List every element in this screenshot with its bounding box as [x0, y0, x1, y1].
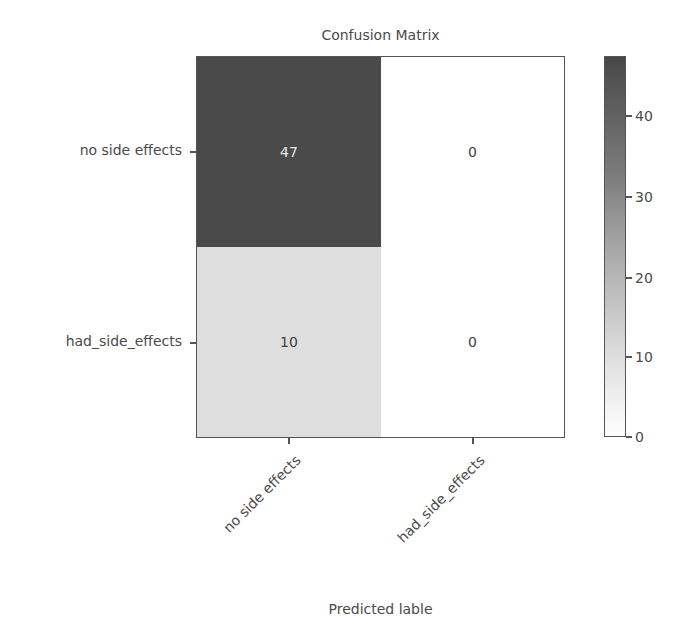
cell-value: 10 [280, 334, 298, 350]
colorbar [604, 56, 626, 437]
cell-r1-c0: 10 [197, 247, 381, 437]
colorbar-tick-0 [626, 436, 632, 438]
x-tick-1 [472, 438, 474, 444]
cell-r0-c0: 47 [197, 57, 381, 247]
colorbar-tick-20 [626, 277, 632, 279]
y-tick-0 [190, 151, 196, 153]
colorbar-label-20: 20 [635, 270, 653, 286]
y-tick-1 [190, 342, 196, 344]
confusion-matrix: 47 0 10 0 [196, 56, 565, 438]
colorbar-tick-10 [626, 356, 632, 358]
cell-value: 0 [468, 144, 477, 160]
chart-title: Confusion Matrix [196, 27, 565, 43]
colorbar-tick-30 [626, 196, 632, 198]
colorbar-tick-40 [626, 115, 632, 117]
cell-value: 0 [468, 334, 477, 350]
y-tick-label-1: had_side_effects [66, 333, 182, 349]
x-tick-label-0: no side effects [220, 452, 304, 536]
colorbar-label-10: 10 [635, 349, 653, 365]
cell-r0-c1: 0 [381, 57, 564, 247]
colorbar-label-0: 0 [635, 429, 644, 445]
colorbar-label-30: 30 [635, 189, 653, 205]
y-tick-label-0: no side effects [80, 142, 182, 158]
colorbar-label-40: 40 [635, 108, 653, 124]
x-axis-label: Predicted lable [196, 601, 565, 617]
cell-value: 47 [280, 144, 298, 160]
x-tick-label-1: had_side_effects [394, 452, 488, 546]
x-tick-0 [288, 438, 290, 444]
cell-r1-c1: 0 [381, 247, 564, 437]
